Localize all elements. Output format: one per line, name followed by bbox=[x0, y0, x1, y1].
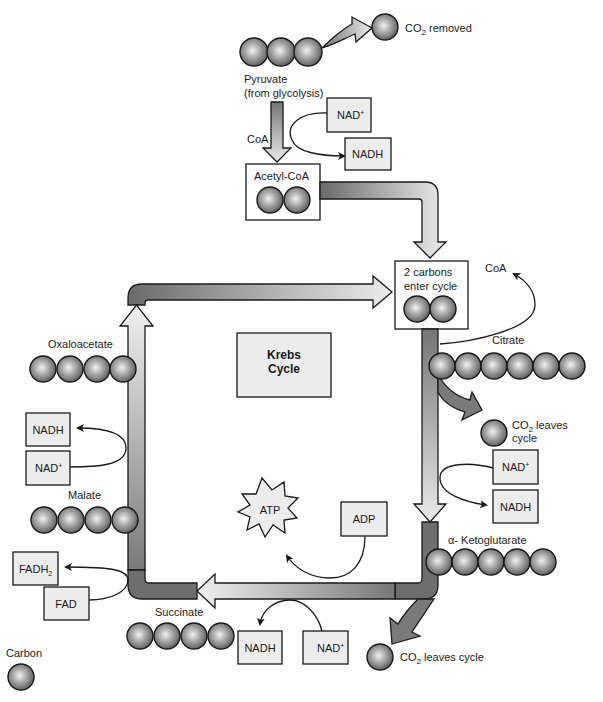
legend-carbon-icon bbox=[8, 664, 34, 690]
adp-label: ADP bbox=[353, 513, 376, 525]
carbon-atom-icon bbox=[429, 353, 455, 379]
nad-plus-label: NAD+ bbox=[337, 109, 364, 121]
succinate-molecule bbox=[127, 623, 234, 649]
carbon-atom-icon bbox=[426, 549, 452, 575]
carbon-atom-icon bbox=[559, 353, 585, 379]
pyruvate-label: Pyruvate bbox=[244, 73, 287, 85]
cycle-bottom-arrow-icon bbox=[197, 574, 395, 608]
krebs-title-line2: Cycle bbox=[268, 362, 300, 376]
carbon-atom-icon bbox=[58, 507, 84, 533]
oxaloacetate-molecule bbox=[30, 356, 136, 382]
carbon-atom-icon bbox=[181, 623, 207, 649]
carbon-atom-icon bbox=[404, 296, 430, 322]
carbon-atom-icon bbox=[84, 356, 110, 382]
fad-label: FAD bbox=[55, 598, 76, 610]
carbon-atom-icon bbox=[154, 623, 180, 649]
carbon-atom-icon bbox=[530, 549, 556, 575]
citrate-molecule bbox=[429, 353, 585, 379]
nadh-label: NADH bbox=[244, 642, 275, 654]
acetyl-to-cycle-arrow-icon bbox=[320, 182, 446, 258]
co2-carbon-icon bbox=[367, 644, 393, 670]
nadh-label: NADH bbox=[500, 501, 531, 513]
carbon-atom-icon bbox=[481, 353, 507, 379]
co2-leaves-branch-arrow-icon bbox=[438, 375, 482, 420]
nad-plus-label: NAD+ bbox=[35, 462, 62, 474]
carbon-atom-icon bbox=[455, 353, 481, 379]
carbon-atom-icon bbox=[504, 549, 530, 575]
nad-plus-label: NAD+ bbox=[317, 642, 344, 654]
nad-plus-label: NAD+ bbox=[502, 461, 529, 473]
ketoglutarate-label: α- Ketoglutarate bbox=[448, 534, 527, 546]
carbon-atom-icon bbox=[284, 187, 310, 213]
malate-molecule bbox=[31, 507, 138, 533]
carbon-atom-icon bbox=[31, 507, 57, 533]
co2-removal-arrow-icon bbox=[322, 17, 372, 48]
legend-carbon-label: Carbon bbox=[6, 647, 42, 659]
krebs-cycle-diagram: Pyruvate (from glycolysis) CO2 removed C… bbox=[0, 0, 603, 702]
carbon-atom-icon bbox=[85, 507, 111, 533]
carbon-atom-icon bbox=[267, 38, 295, 66]
carbon-atom-icon bbox=[110, 356, 136, 382]
pyruvate-group: Pyruvate (from glycolysis) bbox=[240, 38, 323, 99]
coa-input-label: CoA bbox=[247, 133, 269, 145]
nad-reduction-arrow-icon bbox=[70, 428, 126, 467]
carbon-atom-icon bbox=[127, 623, 153, 649]
co2-leaves-label-2: cycle bbox=[512, 432, 537, 444]
adp-to-atp-arrow-icon bbox=[287, 536, 365, 578]
co2-carbon-icon bbox=[372, 14, 398, 40]
fadh2-label: FADH2 bbox=[19, 563, 52, 577]
carbon-atom-icon bbox=[478, 549, 504, 575]
citrate-label: Citrate bbox=[492, 334, 524, 346]
carbon-atom-icon bbox=[30, 356, 56, 382]
carbon-atom-icon bbox=[257, 187, 283, 213]
entry-line2: enter cycle bbox=[404, 280, 457, 292]
krebs-title-line1: Krebs bbox=[267, 348, 301, 362]
nadh-label: NADH bbox=[32, 424, 63, 436]
carbon-atom-icon bbox=[430, 296, 456, 322]
carbon-atom-icon bbox=[208, 623, 234, 649]
atp-label: ATP bbox=[260, 504, 281, 516]
pyruvate-to-acetyl-arrow-icon bbox=[263, 102, 291, 162]
ketoglutarate-molecule bbox=[426, 549, 556, 575]
coa-output-label: CoA bbox=[485, 262, 507, 274]
pyruvate-source-label: (from glycolysis) bbox=[244, 87, 323, 99]
carbon-atom-icon bbox=[452, 549, 478, 575]
carbon-atom-icon bbox=[507, 353, 533, 379]
co2-removed-label: CO2 removed bbox=[405, 22, 472, 37]
nad-reduction-arrow-icon bbox=[440, 464, 493, 505]
nadh-label: NADH bbox=[352, 148, 383, 160]
carbon-atom-icon bbox=[294, 38, 322, 66]
co2-carbon-icon bbox=[481, 420, 507, 446]
carbon-atom-icon bbox=[112, 507, 138, 533]
carbon-atom-icon bbox=[533, 353, 559, 379]
succinate-label: Succinate bbox=[155, 606, 203, 618]
cycle-bottom-left-corner bbox=[128, 570, 197, 599]
nad-reduction-arrow-icon bbox=[260, 600, 322, 631]
co2-leaves-cycle-label: CO2 leaves cycle bbox=[400, 651, 484, 666]
malate-label: Malate bbox=[68, 489, 101, 501]
carbon-atom-icon bbox=[57, 356, 83, 382]
entry-line1: 2 carbons bbox=[404, 266, 453, 278]
co2-leaves-bottom-arrow-icon bbox=[390, 599, 434, 644]
cycle-top-arrow-icon bbox=[128, 276, 392, 308]
carbon-atom-icon bbox=[240, 38, 268, 66]
oxaloacetate-label: Oxaloacetate bbox=[48, 338, 113, 350]
acetyl-coa-label: Acetyl-CoA bbox=[254, 170, 310, 182]
